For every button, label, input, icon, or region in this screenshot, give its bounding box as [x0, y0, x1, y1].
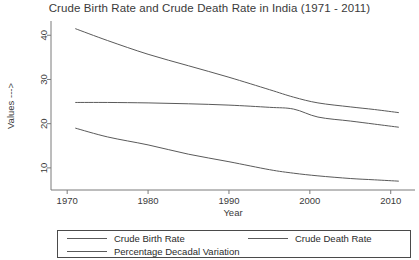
plot-area: 1020304019701980199020002010YearValues -…	[0, 0, 419, 225]
x-tick-label: 2010	[380, 195, 401, 206]
legend-line-icon	[67, 251, 107, 252]
legend-label: Percentage Decadal Variation	[114, 245, 240, 258]
legend-item-crude-birth-rate: Crude Birth Rate	[58, 232, 185, 245]
legend-item-crude-death-rate: Crude Death Rate	[239, 232, 372, 245]
y-tick-label: 10	[39, 163, 50, 174]
x-axis-title: Year	[223, 207, 242, 218]
y-axis-title: Values --->	[5, 83, 16, 129]
x-tick-label: 2000	[299, 195, 320, 206]
x-tick-label: 1970	[57, 195, 78, 206]
x-tick-label: 1990	[218, 195, 239, 206]
legend-label: Crude Birth Rate	[114, 232, 185, 245]
y-tick-label: 40	[39, 30, 50, 41]
legend-line-icon	[67, 238, 107, 239]
series-line-percentage-decadal-variation	[75, 102, 399, 127]
series-line-crude-birth-rate	[75, 29, 399, 113]
x-tick-label: 1980	[137, 195, 158, 206]
chart-legend: Crude Birth Rate Percentage Decadal Vari…	[57, 230, 411, 258]
y-tick-label: 20	[39, 118, 50, 129]
chart-figure: Crude Birth Rate and Crude Death Rate in…	[0, 0, 419, 260]
legend-item-percentage-decadal-variation: Percentage Decadal Variation	[58, 245, 240, 258]
series-line-crude-death-rate	[75, 128, 399, 181]
y-tick-label: 30	[39, 74, 50, 85]
legend-label: Crude Death Rate	[295, 232, 372, 245]
legend-line-icon	[248, 238, 288, 239]
data-series-layer	[75, 29, 399, 182]
